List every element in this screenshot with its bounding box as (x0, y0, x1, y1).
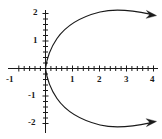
parabola-upper-branch (46, 10, 151, 68)
y-tick-label-neg1: -1 (28, 91, 36, 100)
x-tick-label-neg1: -1 (6, 75, 14, 84)
parabola-figure: -1 1 2 3 4 2 1 -1 -2 (0, 0, 162, 139)
x-tick-label-2: 2 (97, 75, 102, 84)
arrowhead-upper-branch-icon (146, 10, 156, 18)
arrowhead-lower-branch-icon (146, 119, 156, 127)
y-tick-label-2: 2 (33, 8, 38, 17)
x-tick-label-4: 4 (150, 75, 155, 84)
plot-canvas (0, 0, 162, 139)
x-tick-label-1: 1 (70, 75, 75, 84)
x-tick-label-3: 3 (124, 75, 129, 84)
y-tick-label-neg2: -2 (28, 118, 36, 127)
y-tick-label-1: 1 (33, 36, 38, 45)
